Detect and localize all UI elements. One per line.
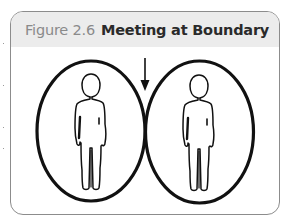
person-icon bbox=[183, 75, 214, 191]
boundary-diagram bbox=[0, 0, 285, 224]
person-icon bbox=[75, 74, 106, 190]
down-arrow-icon bbox=[141, 58, 150, 91]
